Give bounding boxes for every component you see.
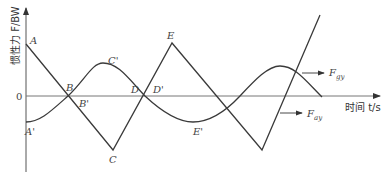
point-a-prime-label: A' xyxy=(24,126,35,137)
point-d-label: D xyxy=(130,84,139,95)
zero-label: 0 xyxy=(16,91,22,102)
point-d-prime-label: D' xyxy=(152,84,164,95)
y-axis-label: 惯性力 F/BW xyxy=(9,6,21,65)
inertia-force-diagram: 惯性力 F/BW 0 时间 t/s A B B' C C' D D' E E' … xyxy=(0,0,391,180)
point-c-label: C xyxy=(109,154,117,165)
point-e-prime-label: E' xyxy=(192,126,203,137)
point-e-label: E xyxy=(166,30,175,41)
fgy-label: Fgy xyxy=(328,67,345,81)
fay-label: Fay xyxy=(306,108,323,122)
point-b-label: B xyxy=(65,82,73,93)
point-b-prime-label: B' xyxy=(78,98,89,109)
point-c-prime-label: C' xyxy=(108,55,118,66)
x-axis-label: 时间 t/s xyxy=(345,101,381,113)
point-a-label: A xyxy=(29,35,37,46)
